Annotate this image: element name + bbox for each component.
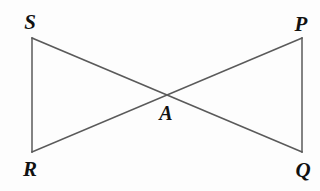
vertex-label-s: S — [24, 12, 36, 33]
point-label-a: A — [159, 103, 172, 123]
geometry-figure: S P R Q A — [0, 0, 320, 191]
vertex-label-p: P — [295, 14, 308, 35]
vertex-label-r: R — [23, 159, 37, 180]
vertex-label-q: Q — [295, 160, 310, 181]
figure-canvas — [0, 0, 320, 191]
